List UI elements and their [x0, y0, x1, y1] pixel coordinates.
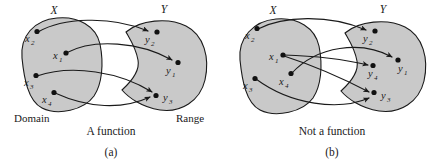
domain-caption-a: Domain: [14, 112, 50, 124]
diagram-a: X Y x 2 x 1: [0, 0, 222, 166]
svg-text:3: 3: [248, 86, 253, 94]
point-x1-a: [63, 50, 68, 55]
svg-text:3: 3: [386, 96, 391, 104]
set-label-Y-a: Y: [161, 3, 169, 15]
svg-text:y: y: [362, 33, 368, 44]
svg-text:1: 1: [59, 56, 63, 64]
svg-text:3: 3: [29, 83, 34, 91]
set-label-X-b: X: [268, 4, 277, 16]
svg-text:y: y: [144, 34, 150, 45]
svg-text:x: x: [278, 76, 284, 87]
point-x1-b: [280, 52, 285, 57]
panel-b-index: (b): [221, 146, 443, 159]
svg-text:x: x: [24, 33, 30, 44]
set-label-X-a: X: [49, 4, 58, 16]
svg-text:y: y: [367, 68, 373, 79]
point-x4-a: [51, 90, 56, 95]
panel-b-title: Not a function: [221, 125, 443, 138]
point-x2-a: [34, 29, 39, 34]
svg-text:1: 1: [275, 57, 279, 65]
panel-a-index: (a): [0, 146, 222, 159]
svg-text:4: 4: [48, 100, 52, 108]
function-mapping-figure: X Y x 2 x 1: [0, 0, 443, 166]
point-y3-a: [153, 93, 158, 98]
point-y2-b: [372, 28, 377, 33]
svg-text:x: x: [244, 30, 250, 41]
svg-text:1: 1: [404, 69, 408, 77]
svg-text:2: 2: [251, 36, 255, 44]
point-y1-a: [175, 60, 180, 65]
svg-text:x: x: [52, 50, 58, 61]
svg-text:x: x: [41, 94, 47, 105]
panel-b: X Y x 2 x 1: [221, 0, 443, 166]
svg-text:y: y: [162, 92, 168, 103]
point-x2-b: [254, 26, 259, 31]
svg-text:x: x: [23, 77, 29, 88]
svg-text:4: 4: [374, 74, 378, 82]
svg-text:2: 2: [31, 39, 35, 47]
svg-text:y: y: [397, 63, 403, 74]
svg-text:4: 4: [285, 82, 289, 90]
diagram-b: X Y x 2 x 1: [221, 0, 443, 166]
panel-a: X Y x 2 x 1: [0, 0, 222, 166]
svg-text:2: 2: [369, 39, 373, 47]
svg-text:2: 2: [151, 40, 155, 48]
set-label-Y-b: Y: [380, 3, 388, 15]
point-y1-b: [395, 57, 400, 62]
panel-a-title: A function: [0, 125, 222, 138]
svg-text:x: x: [268, 51, 274, 62]
domain-set-blob-a: [22, 18, 102, 112]
point-x3-b: [252, 76, 257, 81]
point-x4-b: [288, 71, 293, 76]
svg-text:3: 3: [168, 98, 173, 106]
domain-set-blob-b: [240, 19, 321, 114]
svg-text:x: x: [242, 80, 248, 91]
point-y2-a: [154, 29, 159, 34]
range-caption-a: Range: [176, 112, 204, 124]
point-x3-a: [33, 73, 38, 78]
svg-text:y: y: [165, 65, 171, 76]
svg-text:y: y: [380, 90, 386, 101]
point-y3-b: [371, 90, 376, 95]
svg-text:1: 1: [172, 71, 176, 79]
